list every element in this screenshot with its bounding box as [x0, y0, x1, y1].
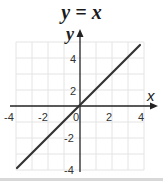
y-tick-label: -4	[64, 164, 74, 176]
y-tick-label: 2	[70, 85, 76, 97]
x-tick-label: -4	[4, 111, 14, 123]
y-axis	[77, 29, 84, 172]
x-tick-label: 0	[73, 111, 79, 123]
x-tick-label: -2	[38, 111, 48, 123]
y-tick-label: -2	[64, 132, 74, 144]
y-axis-label: y	[64, 24, 75, 44]
x-axis-label: x	[146, 87, 155, 104]
x-tick-label: 2	[106, 111, 112, 123]
bottom-divider	[0, 178, 163, 181]
plot-area: -4 -2 0 2 4 4 2 -2 -4 x y	[0, 0, 163, 181]
x-tick-label: 4	[138, 111, 144, 123]
y-axis-arrow-icon	[77, 29, 84, 37]
y-tick-label: 4	[70, 53, 76, 65]
tick-labels: -4 -2 0 2 4 4 2 -2 -4	[4, 53, 144, 176]
